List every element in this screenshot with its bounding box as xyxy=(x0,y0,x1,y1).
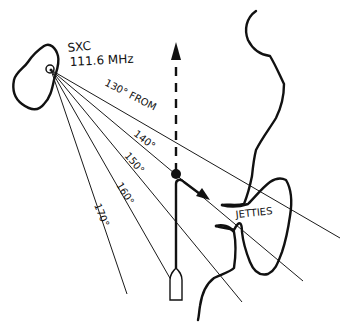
station-id: SXC xyxy=(67,39,92,55)
radial-label-160: 160° xyxy=(114,180,136,206)
radial-170 xyxy=(51,70,127,294)
jetties-label: JETTIES xyxy=(234,205,273,220)
radial-label-130: 130° FROM xyxy=(103,77,158,112)
station-frequency: 111.6 MHz xyxy=(69,52,133,69)
radial-130 xyxy=(51,70,340,238)
arrow-up-icon xyxy=(171,42,181,60)
boat-icon xyxy=(170,268,182,300)
vor-navigation-diagram: SXC 111.6 MHz 130° FROM 140° 150° 160° 1… xyxy=(0,0,347,322)
mainland-coastline xyxy=(222,11,284,205)
radials xyxy=(51,70,340,302)
lower-coastline xyxy=(198,225,236,320)
turn-arrow-icon xyxy=(196,188,210,200)
island-outline xyxy=(13,45,58,110)
boat-track xyxy=(176,180,200,268)
radial-label-170: 170° xyxy=(92,202,111,228)
intercept-position-dot xyxy=(171,169,181,179)
